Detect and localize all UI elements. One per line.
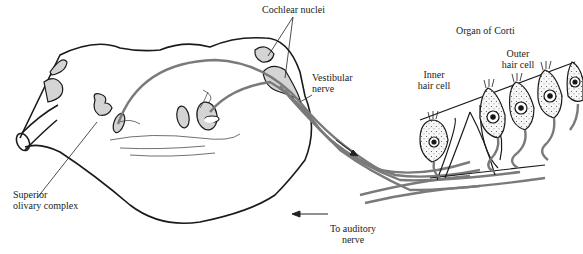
outer-hair-cell-4 [567,62,583,101]
label-vestibular-nerve-line1: Vestibular [312,72,353,83]
label-cochlear-nuclei: Cochlear nuclei [262,4,325,15]
label-organ-of-corti: Organ of Corti [456,25,515,36]
diagram-artwork [0,0,583,254]
label-inner-hair-cell-line1: Inner [412,69,456,80]
outer-hair-cell-1 [480,79,505,138]
auditory-pathway-diagram: Cochlear nuclei Vestibular nerve Organ o… [0,0,583,254]
label-superior-olivary-line2: olivary complex [13,200,78,211]
outer-hair-cell-3 [538,61,562,118]
right-superior-olive [175,100,219,131]
label-to-auditory-nerve-line2: nerve [318,234,388,245]
pointer-lines [37,17,312,198]
label-to-auditory-nerve-line1: To auditory [318,223,388,234]
label-inner-hair-cell-line2: hair cell [412,80,456,91]
label-outer-hair-cell-line1: Outer [496,48,540,59]
label-outer-hair-cell-line2: hair cell [496,59,540,70]
label-superior-olivary-line1: Superior [13,189,47,200]
left-superior-olive [94,94,112,116]
left-nuclei [44,60,127,134]
cochlear-nuclei [255,47,300,100]
label-vestibular-nerve-line2: nerve [312,83,334,94]
